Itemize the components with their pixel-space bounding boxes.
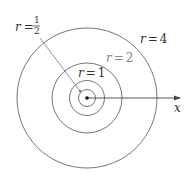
label-r-1: r=1 bbox=[78, 66, 105, 80]
label-r-half: r= bbox=[15, 20, 34, 34]
x-axis-label: x bbox=[174, 101, 181, 115]
label-r-half-num: 1 bbox=[34, 15, 40, 25]
leader-line-r-half bbox=[40, 38, 80, 91]
label-r-2: r=2 bbox=[106, 51, 133, 65]
label-r-half-den: 2 bbox=[34, 26, 40, 36]
leader-dot bbox=[79, 90, 81, 92]
label-r-4: r=4 bbox=[140, 32, 168, 46]
origin-dot bbox=[85, 96, 89, 100]
polar-circles-diagram: r= 1 2 r=1 r=2 r=4 x bbox=[0, 0, 191, 177]
